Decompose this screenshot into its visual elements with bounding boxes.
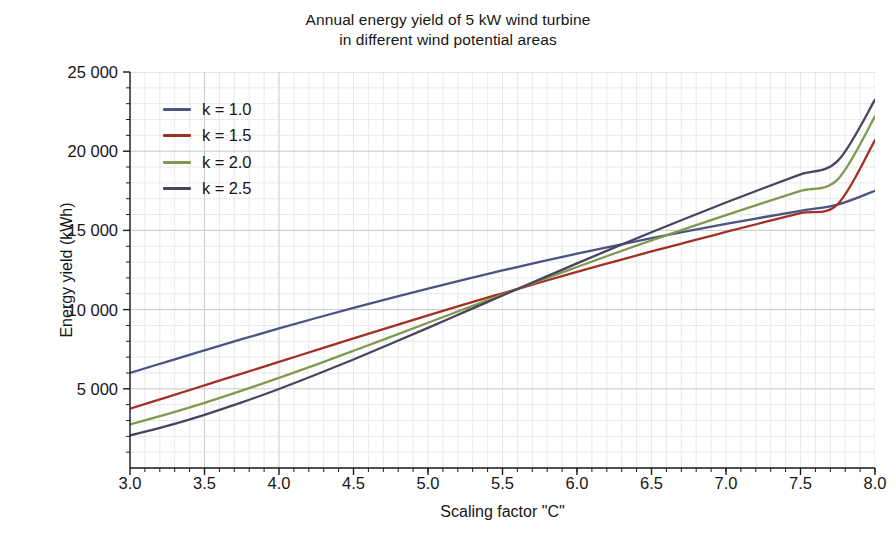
legend-color-swatch bbox=[163, 161, 191, 164]
x-axis-tick-label: 5.0 bbox=[417, 474, 440, 493]
x-axis-tick-label: 4.5 bbox=[342, 474, 365, 493]
x-axis-tick-label: 7.0 bbox=[715, 474, 738, 493]
x-axis-tick-label: 6.0 bbox=[566, 474, 589, 493]
x-axis-tick-label: 4.0 bbox=[268, 474, 291, 493]
x-axis-tick-label: 6.5 bbox=[640, 474, 663, 493]
chart-title-line-2: in different wind potential areas bbox=[0, 30, 896, 50]
x-axis-title: Scaling factor "C" bbox=[130, 503, 875, 521]
x-axis-tick-label: 5.5 bbox=[491, 474, 514, 493]
chart-legend: k = 1.0k = 1.5k = 2.0k = 2.5 bbox=[163, 96, 251, 202]
legend-item-label: k = 2.5 bbox=[202, 179, 251, 198]
chart-title-line-1: Annual energy yield of 5 kW wind turbine bbox=[0, 10, 896, 30]
legend-item: k = 2.5 bbox=[163, 176, 251, 203]
y-axis-tick-label: 15 000 bbox=[68, 221, 118, 240]
series-line-0 bbox=[130, 191, 875, 373]
x-axis-tick-label: 8.0 bbox=[864, 474, 887, 493]
x-axis-tick-label: 3.5 bbox=[193, 474, 216, 493]
chart-title: Annual energy yield of 5 kW wind turbine… bbox=[0, 10, 896, 51]
y-axis-tick-labels: 25 00020 00015 00010 0005 000 bbox=[0, 0, 118, 539]
y-axis-tick-label: 10 000 bbox=[68, 300, 118, 319]
legend-item: k = 1.5 bbox=[163, 123, 251, 150]
x-axis-tick-label: 3.0 bbox=[119, 474, 142, 493]
legend-color-swatch bbox=[163, 134, 191, 137]
legend-item-label: k = 1.5 bbox=[202, 126, 251, 145]
x-axis-tick-label: 7.5 bbox=[789, 474, 812, 493]
legend-color-swatch bbox=[163, 187, 191, 190]
y-axis-tick-label: 25 000 bbox=[68, 63, 118, 82]
legend-color-swatch bbox=[163, 108, 191, 111]
legend-item-label: k = 2.0 bbox=[202, 153, 251, 172]
y-axis-tick-label: 5 000 bbox=[77, 379, 118, 398]
legend-item-label: k = 1.0 bbox=[202, 100, 251, 119]
legend-item: k = 2.0 bbox=[163, 149, 251, 176]
legend-item: k = 1.0 bbox=[163, 96, 251, 123]
chart-figure: Annual energy yield of 5 kW wind turbine… bbox=[0, 0, 896, 539]
y-axis-tick-label: 20 000 bbox=[68, 142, 118, 161]
